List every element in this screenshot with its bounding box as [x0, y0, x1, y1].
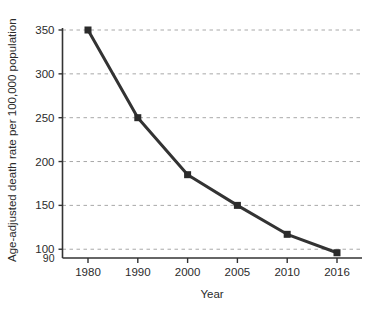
- y-tick-label-200: 200: [35, 156, 54, 168]
- data-point-2010: [284, 231, 291, 238]
- data-point-2016: [334, 249, 341, 256]
- data-point-1980: [85, 27, 92, 34]
- y-tick-label-150: 150: [35, 199, 54, 211]
- line-chart: 35030025020015010090 1980199020002005201…: [0, 0, 373, 312]
- y-tick-label-250: 250: [35, 112, 54, 124]
- x-tick-label-2005: 2005: [225, 266, 251, 278]
- data-point-2000: [184, 171, 191, 178]
- data-point-2005: [234, 202, 241, 209]
- x-tick-label-1990: 1990: [125, 266, 151, 278]
- x-tick-label-2016: 2016: [324, 266, 350, 278]
- x-axis-title: Year: [200, 288, 223, 300]
- x-tick-label-1980: 1980: [75, 266, 101, 278]
- chart-canvas: 35030025020015010090 1980199020002005201…: [0, 0, 373, 312]
- y-axis-title: Age-adjusted death rate per 100,000 popu…: [6, 18, 18, 262]
- y-tick-label-350: 350: [35, 24, 54, 36]
- y-tick-label-90: 90: [43, 252, 55, 264]
- x-tick-label-2000: 2000: [175, 266, 201, 278]
- data-point-1990: [134, 114, 141, 121]
- y-tick-label-300: 300: [35, 68, 54, 80]
- x-tick-label-2010: 2010: [274, 266, 300, 278]
